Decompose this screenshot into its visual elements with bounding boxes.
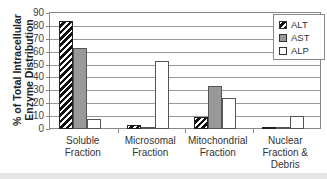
y-tick-label: 10 (20, 110, 44, 121)
gridline (50, 90, 320, 91)
gridline (50, 65, 320, 66)
y-tick-mark (46, 77, 50, 78)
y-tick-mark (46, 129, 50, 130)
x-category-label: MicrosomalFraction (117, 135, 185, 159)
x-label-line: Soluble (49, 135, 117, 147)
legend-item-alp: ALP (279, 45, 309, 56)
bar-alt (262, 127, 276, 129)
legend-label: AST (291, 32, 309, 43)
hatch-swatch-icon (279, 21, 287, 29)
y-tick-mark (46, 39, 50, 40)
white-swatch-icon (279, 47, 287, 55)
x-label-line: Microsomal (117, 135, 185, 147)
y-tick-label: 60 (20, 46, 44, 57)
y-tick-label: 80 (20, 20, 44, 31)
legend-item-alt: ALT (279, 19, 308, 30)
bar-alt (194, 117, 208, 129)
bar-alt (127, 125, 141, 129)
x-label-line: Fraction (184, 147, 252, 159)
y-tick-mark (46, 65, 50, 66)
bar-alp (290, 116, 304, 129)
gray-swatch-icon (279, 34, 287, 42)
y-tick-label: 30 (20, 84, 44, 95)
legend: ALT AST ALP (273, 14, 325, 60)
y-tick-label: 20 (20, 97, 44, 108)
y-tick-mark (46, 52, 50, 53)
bar-alp (222, 98, 236, 129)
x-label-line: Fraction (117, 147, 185, 159)
x-category-label: NuclearFraction &Debris (252, 135, 320, 171)
y-tick-mark (46, 13, 50, 14)
x-tick-mark (118, 129, 119, 133)
bar-ast (73, 48, 87, 129)
x-label-line: Mitochondrial (184, 135, 252, 147)
y-tick-mark (46, 90, 50, 91)
x-label-line: Nuclear (252, 135, 320, 147)
bar-alp (87, 119, 101, 129)
bar-ast (141, 127, 155, 129)
x-label-line: Debris (252, 159, 320, 171)
x-category-label: MitochondrialFraction (184, 135, 252, 159)
bar-alp (155, 61, 169, 129)
legend-label: ALP (291, 45, 309, 56)
y-tick-label: 40 (20, 71, 44, 82)
y-tick-mark (46, 116, 50, 117)
gridline (50, 116, 320, 117)
bottom-divider (0, 173, 327, 179)
x-tick-mark (253, 129, 254, 133)
y-tick-mark (46, 26, 50, 27)
legend-item-ast: AST (279, 32, 309, 43)
x-category-label: SolubleFraction (49, 135, 117, 159)
y-tick-label: 0 (20, 123, 44, 134)
legend-label: ALT (291, 19, 308, 30)
bar-ast (208, 86, 222, 129)
bar-ast (276, 127, 290, 129)
y-tick-label: 90 (20, 7, 44, 18)
y-tick-mark (46, 103, 50, 104)
x-tick-mark (185, 129, 186, 133)
gridline (50, 77, 320, 78)
x-label-line: Fraction (49, 147, 117, 159)
y-tick-label: 70 (20, 33, 44, 44)
bar-alt (59, 21, 73, 129)
gridline (50, 103, 320, 104)
y-tick-label: 50 (20, 59, 44, 70)
x-label-line: Fraction & (252, 147, 320, 159)
